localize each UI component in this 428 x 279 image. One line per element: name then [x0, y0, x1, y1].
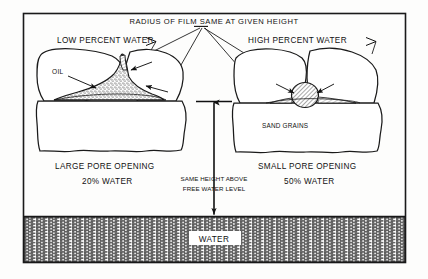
right-panel-heading: HIGH PERCENT WATER [248, 36, 347, 45]
sand-grains-label: SAND GRAINS [262, 122, 308, 129]
right-pore-illustration: SAND GRAINS [232, 48, 382, 152]
height-measure [196, 102, 232, 216]
right-heading-pointer [366, 38, 376, 46]
water-label: WATER [199, 235, 229, 244]
left-panel-heading: LOW PERCENT WATER [57, 36, 154, 45]
right-water-ring [292, 83, 319, 108]
left-grain-lower [36, 101, 186, 152]
center-caption-line2: FREE WATER LEVEL [183, 185, 246, 192]
oil-label: OIL [52, 68, 64, 75]
left-pore-illustration: OIL [36, 49, 186, 152]
free-water-body: WATER [24, 217, 405, 263]
diagram-title: RADIUS OF FILM SAME AT GIVEN HEIGHT [129, 17, 298, 26]
right-caption-line1: SMALL PORE OPENING [258, 162, 356, 171]
right-caption-line2: 50% WATER [284, 177, 334, 186]
center-caption-line1: SAME HEIGHT ABOVE [181, 175, 248, 182]
left-caption-line1: LARGE PORE OPENING [55, 162, 155, 171]
capillary-pore-diagram: RADIUS OF FILM SAME AT GIVEN HEIGHT LOW … [0, 0, 428, 279]
left-caption-line2: 20% WATER [82, 177, 132, 186]
